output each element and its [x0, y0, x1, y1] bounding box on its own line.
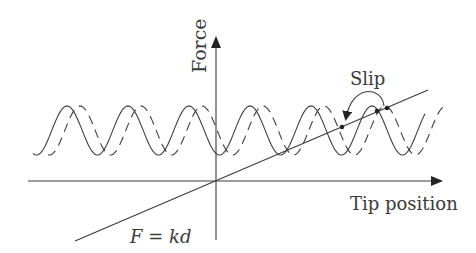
slip-point [375, 109, 380, 114]
slip-label: Slip [350, 68, 385, 89]
y-axis-label: Force [188, 18, 210, 73]
slip-point [385, 106, 390, 111]
stick-slip-diagram: Force Tip position Slip F = kd [0, 0, 476, 253]
spring-law-label: F = kd [129, 226, 191, 247]
slip-point [340, 125, 345, 130]
var-kd: kd [169, 226, 191, 247]
spring-force-line [75, 90, 428, 241]
equals-sign: = [143, 226, 170, 247]
diagram-svg: Force Tip position Slip F = kd [0, 0, 476, 253]
slip-arrow-icon [346, 92, 384, 118]
x-axis-label: Tip position [350, 193, 458, 214]
dashed-sinusoid [48, 106, 444, 155]
solid-sinusoid [33, 106, 425, 155]
